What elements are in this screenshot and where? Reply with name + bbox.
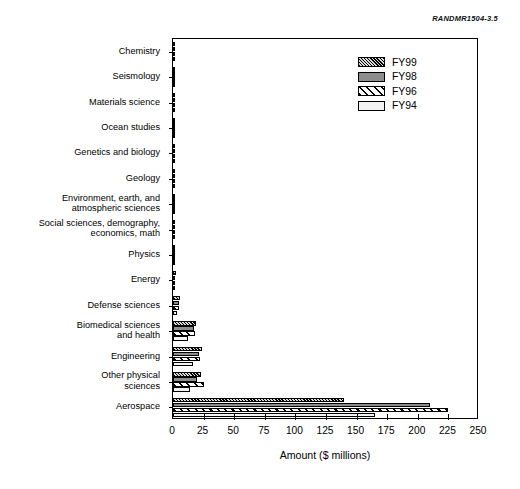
y-axis-category-label: Other physical sciences (0, 370, 160, 391)
x-axis-tick-label: 25 (197, 425, 208, 436)
bar-fy96 (173, 179, 175, 183)
x-axis-title: Amount ($ millions) (172, 449, 478, 461)
x-axis-tick-label: 75 (258, 425, 269, 436)
bar-fy98 (173, 225, 175, 229)
bar-fy94 (173, 82, 175, 86)
bar-fy98 (173, 72, 175, 76)
bar-fy96 (173, 255, 175, 259)
y-axis-category-label: Defense sciences (0, 300, 160, 310)
bar-fy96 (173, 77, 175, 81)
bar-fy98 (173, 250, 175, 254)
y-axis-category-label: Energy (0, 274, 160, 284)
bar-fy94 (173, 133, 175, 137)
x-axis-tick (387, 414, 388, 420)
bar-fy94 (173, 336, 188, 340)
bar-fy98 (173, 403, 430, 407)
figure-id-label: RANDMR1504-3.5 (432, 14, 498, 23)
x-axis-tick-label: 175 (378, 425, 395, 436)
bar-fy98 (173, 276, 175, 280)
bar-fy99 (173, 321, 196, 325)
legend-item-fy98: FY98 (358, 70, 458, 85)
y-axis-category-label: Geology (0, 173, 160, 183)
y-axis-category-label: Social sciences, demography, economics, … (0, 218, 160, 239)
x-axis-tick (204, 414, 205, 420)
legend-item-fy96: FY96 (358, 84, 458, 99)
x-axis-tick (234, 414, 235, 420)
x-axis-tick-label: 100 (286, 425, 303, 436)
legend-swatch-fy94 (358, 101, 385, 111)
bar-fy96 (173, 154, 175, 158)
bar-fy94 (173, 108, 175, 112)
bar-fy98 (173, 149, 175, 153)
bar-fy99 (173, 245, 175, 249)
bar-fy99 (173, 296, 180, 300)
bar-fy96 (173, 357, 200, 361)
bar-fy94 (173, 235, 175, 239)
x-axis-tick (357, 414, 358, 420)
y-axis-category-label: Biomedical sciences and health (0, 320, 160, 341)
bar-fy96 (173, 408, 448, 412)
x-axis-tick-label: 150 (347, 425, 364, 436)
y-axis-category-label: Physics (0, 249, 160, 259)
x-axis-tick-label: 250 (470, 425, 487, 436)
bar-fy94 (173, 387, 190, 391)
x-axis-tick-label: 200 (408, 425, 425, 436)
x-axis-tick-label: 225 (439, 425, 456, 436)
bar-fy96 (173, 331, 195, 335)
bar-fy99 (173, 67, 175, 71)
bar-fy98 (173, 174, 175, 178)
bar-fy98 (173, 352, 199, 356)
y-axis-category-label: Ocean studies (0, 122, 160, 132)
legend-label: FY99 (392, 57, 417, 68)
x-axis-tick (295, 414, 296, 420)
bar-fy94 (173, 260, 175, 264)
bar-fy98 (173, 301, 179, 305)
bar-fy98 (173, 47, 175, 51)
figure-container: RANDMR1504-3.5 ChemistrySeismologyMateri… (0, 0, 520, 489)
bar-fy96 (173, 204, 175, 208)
legend-swatch-fy96 (358, 86, 385, 96)
bar-fy94 (173, 311, 177, 315)
legend-item-fy99: FY99 (358, 55, 458, 70)
y-axis-category-label: Engineering (0, 351, 160, 361)
bar-fy94 (173, 286, 175, 290)
bar-fy99 (173, 398, 344, 402)
bar-fy98 (173, 98, 175, 102)
y-axis-category-label: Chemistry (0, 46, 160, 56)
bar-fy96 (173, 281, 175, 285)
bar-fy94 (173, 57, 175, 61)
legend-item-fy94: FY94 (358, 99, 458, 114)
x-axis-tick (265, 414, 266, 420)
legend-swatch-fy98 (358, 72, 385, 82)
legend-label: FY96 (392, 86, 417, 97)
bar-fy94 (173, 159, 175, 163)
x-axis-tick-label: 50 (228, 425, 239, 436)
bar-fy98 (173, 123, 175, 127)
y-axis-category-label: Environment, earth, and atmospheric scie… (0, 193, 160, 214)
bar-fy96 (173, 103, 175, 107)
bar-fy94 (173, 362, 193, 366)
bar-fy99 (173, 372, 201, 376)
y-axis-category-labels: ChemistrySeismologyMaterials scienceOcea… (0, 38, 168, 419)
bar-fy99 (173, 42, 175, 46)
bar-fy99 (173, 93, 175, 97)
bar-fy99 (173, 144, 175, 148)
bar-fy96 (173, 52, 175, 56)
chart-legend: FY99FY98FY96FY94 (352, 50, 464, 119)
y-axis-category-label: Materials science (0, 97, 160, 107)
x-axis-tick (418, 414, 419, 420)
bar-fy99 (173, 347, 202, 351)
bar-fy96 (173, 230, 175, 234)
y-axis-category-label: Seismology (0, 71, 160, 81)
bar-fy99 (173, 194, 175, 198)
bar-fy94 (173, 184, 175, 188)
bar-fy98 (173, 326, 194, 330)
y-axis-category-label: Genetics and biology (0, 147, 160, 157)
x-axis-tick (326, 414, 327, 420)
bar-fy99 (173, 220, 175, 224)
legend-label: FY98 (392, 71, 417, 82)
bar-fy96 (173, 306, 179, 310)
bar-fy99 (173, 118, 175, 122)
bar-fy96 (173, 382, 204, 386)
bar-fy98 (173, 199, 175, 203)
